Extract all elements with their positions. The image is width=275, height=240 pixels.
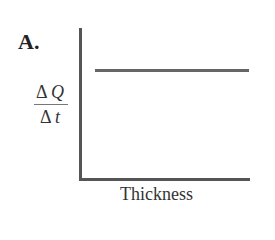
delta-symbol: Δ [36, 82, 48, 102]
x-axis [79, 178, 250, 181]
fraction-bar [34, 104, 68, 105]
panel-label: A. [18, 29, 39, 55]
y-axis-label: Δ Q Δ t [28, 82, 72, 127]
q-variable: Q [51, 82, 64, 102]
delta-symbol: Δ [40, 107, 52, 127]
constant-data-line [95, 69, 249, 72]
x-axis-label: Thickness [120, 184, 193, 205]
t-variable: t [55, 107, 60, 127]
y-axis [79, 28, 82, 181]
y-label-denominator: Δ t [28, 107, 72, 127]
y-label-numerator: Δ Q [28, 82, 72, 102]
